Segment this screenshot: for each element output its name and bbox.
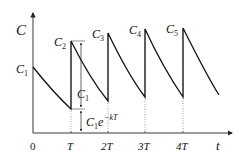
svg-text:2: 2: [62, 42, 66, 51]
peak-label-c4: C 4: [129, 23, 141, 39]
y-axis-label: C: [16, 22, 27, 38]
svg-text:3: 3: [100, 34, 104, 43]
svg-text:1: 1: [24, 69, 28, 78]
x-tick-T: T: [67, 140, 74, 152]
trough-label: C 1 e −kT: [86, 113, 118, 131]
peak-label-c5: C 5: [166, 22, 178, 38]
dose-jump-label: C 1: [77, 87, 89, 103]
svg-text:4: 4: [137, 30, 141, 39]
peak-label-c2: C 2: [54, 35, 66, 51]
x-tick-4T: 4T: [176, 140, 189, 152]
x-tick-3T: 3T: [137, 140, 151, 152]
diagram-canvas: C t 0 T 2T 3T 4T C 1 C 2 C 3 C 4 C 5 C 1…: [0, 0, 239, 157]
x-axis-label: t: [216, 138, 220, 153]
svg-text:5: 5: [174, 29, 178, 38]
x-tick-0: 0: [30, 140, 36, 152]
peak-label-c3: C 3: [92, 27, 104, 43]
svg-text:1: 1: [85, 94, 89, 103]
svg-text:−kT: −kT: [104, 113, 118, 122]
peak-label-c1: C 1: [16, 62, 28, 78]
x-tick-2T: 2T: [101, 140, 114, 152]
